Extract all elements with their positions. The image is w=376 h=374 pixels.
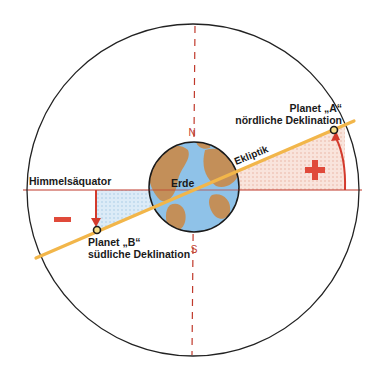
declination-diagram: Himmelsäquator Erde Ekliptik N S Planet … — [0, 0, 376, 374]
celestial-equator-label: Himmelsäquator — [29, 175, 111, 187]
minus-sign — [54, 217, 71, 222]
planet-a-marker — [331, 127, 338, 134]
south-label: S — [191, 244, 198, 255]
earth-label: Erde — [171, 177, 195, 189]
north-label: N — [188, 127, 195, 138]
planet-a-name: Planet „A“ — [289, 102, 342, 114]
planet-b-name: Planet „B“ — [88, 236, 141, 248]
planet-a-description: nördliche Deklination — [235, 114, 342, 126]
planet-b-description: südliche Deklination — [88, 248, 190, 260]
planet-b-marker — [94, 227, 101, 234]
